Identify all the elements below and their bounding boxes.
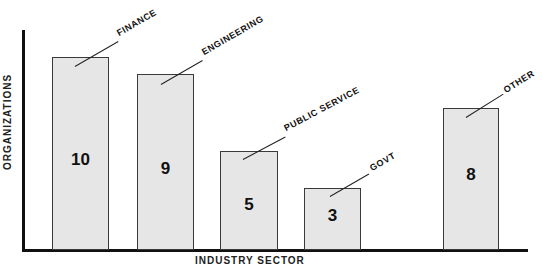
category-label: OTHER xyxy=(502,68,537,95)
bar-other: 8 xyxy=(443,108,499,250)
category-label: GOVT xyxy=(368,150,397,173)
bar-value: 9 xyxy=(138,159,193,179)
y-axis-label: ORGANIZATIONS xyxy=(2,74,13,170)
bar-public-service: 5 xyxy=(220,151,278,250)
bar-finance: 10 xyxy=(52,57,109,250)
y-axis-line xyxy=(22,30,25,251)
bar-govt: 3 xyxy=(304,188,361,250)
category-label: ENGINEERING xyxy=(200,14,265,57)
bar-engineering: 9 xyxy=(137,74,194,250)
category-label: FINANCE xyxy=(115,7,158,38)
bar-value: 8 xyxy=(444,165,498,185)
category-label: PUBLIC SERVICE xyxy=(282,85,361,133)
bar-value: 5 xyxy=(221,195,277,215)
bar-chart: ORGANIZATIONS INDUSTRY SECTOR 10 FINANCE… xyxy=(0,0,546,269)
x-axis-label: INDUSTRY SECTOR xyxy=(195,255,305,266)
bar-value: 3 xyxy=(305,206,360,226)
bar-value: 10 xyxy=(53,150,108,170)
